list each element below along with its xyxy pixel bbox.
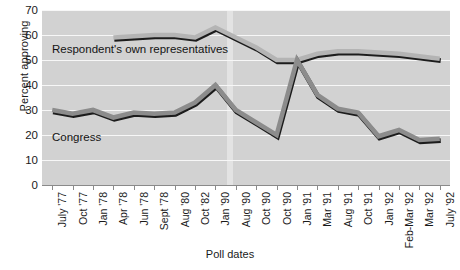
series-line-congress (52, 60, 440, 140)
x-tick (195, 185, 196, 190)
x-tick (175, 185, 176, 190)
x-tick-label: July '77 (56, 192, 68, 227)
x-tick-label: Jun '78 (138, 192, 150, 226)
x-axis-line (42, 185, 450, 186)
x-tick (297, 185, 298, 190)
x-tick-label: Jan '92 (383, 192, 395, 226)
x-tick (440, 185, 441, 190)
x-tick-label: Mar '91 (321, 192, 333, 227)
x-tick (338, 185, 339, 190)
x-tick (52, 185, 53, 190)
x-tick (419, 185, 420, 190)
x-tick (317, 185, 318, 190)
x-tick-label: Oct '90 (281, 192, 293, 225)
x-tick (379, 185, 380, 190)
series-line-congress-shadow (53, 62, 441, 142)
x-tick-label: Sept '78 (158, 192, 170, 230)
x-tick-label: Mar '92 (423, 192, 435, 227)
x-tick (154, 185, 155, 190)
x-tick (256, 185, 257, 190)
x-tick-label: Oct '90 (260, 192, 272, 225)
x-axis-title: Poll dates (0, 248, 460, 260)
x-tick-label: Jan '91 (301, 192, 313, 226)
x-tick (358, 185, 359, 190)
x-tick-label: Oct '91 (362, 192, 374, 225)
x-tick-label: Jan '78 (97, 192, 109, 226)
x-tick-label: Apr '78 (117, 192, 129, 225)
y-tick-label: 10 (4, 154, 38, 166)
x-tick-label: Oct '77 (77, 192, 89, 225)
series-label-congress: Congress (52, 131, 101, 143)
chart-container: Respondent's own representatives Congres… (0, 0, 460, 270)
x-tick (113, 185, 114, 190)
x-tick-label: Oct '82 (199, 192, 211, 225)
x-tick-label: July '92 (444, 192, 456, 227)
x-tick (399, 185, 400, 190)
x-tick-label: Aug '90 (240, 192, 252, 227)
x-tick (134, 185, 135, 190)
series-layer (42, 10, 450, 185)
y-tick-label: 0 (4, 179, 38, 191)
series-label-representatives: Respondent's own representatives (52, 43, 228, 55)
x-tick-label: Jan '90 (219, 192, 231, 226)
x-tick (73, 185, 74, 190)
x-tick (93, 185, 94, 190)
y-axis-title: Percent approving (18, 0, 30, 136)
x-tick-label: Feb-Mar '92 (403, 192, 415, 248)
x-tick (236, 185, 237, 190)
x-tick (277, 185, 278, 190)
x-tick-label: Aug '91 (342, 192, 354, 227)
x-tick (215, 185, 216, 190)
x-tick-label: Aug '80 (179, 192, 191, 227)
